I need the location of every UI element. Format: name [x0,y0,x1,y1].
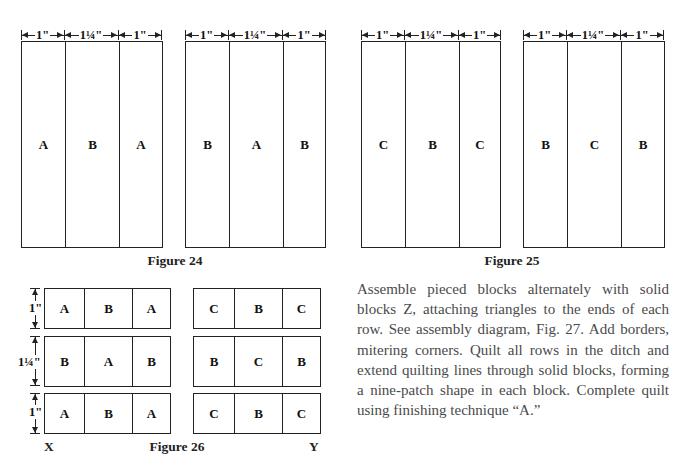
figure-caption: Figure 24 [120,253,230,269]
row-height-label: 1" [29,301,42,315]
instructions-paragraph: Assemble pieced blocks alternately with … [357,279,669,420]
patch-cell: B [524,42,567,247]
patch-cell: C [282,289,320,328]
patch-cell: C [362,42,405,247]
patch-cell: B [405,42,459,247]
dimension-line: 1" 1¼" 1" [523,29,664,41]
dimension-label: 1" [472,29,487,41]
dimension-label: 1" [35,29,50,41]
patch-cell: A [119,42,162,247]
patch-cell: B [84,289,132,328]
patch-cell: B [234,289,282,328]
patch-cell: A [45,394,84,433]
patch-cell: A [84,337,132,386]
block-row: C B C [193,393,321,434]
dimension-label: 1¼" [581,29,606,41]
dimension-label: 1¼" [79,29,104,41]
patch-cell: B [234,394,282,433]
block-y-label: Y [309,439,323,455]
dimension-label: 1" [132,29,147,41]
patch-cell: C [194,394,234,433]
figure-caption: Figure 26 [132,439,222,455]
patch-cell: A [229,42,283,247]
dimension-label: 1" [375,29,390,41]
block-row: A B A [44,393,171,434]
patch-cell: B [186,42,229,247]
strip-panel: B C B [523,41,665,248]
strip-panel: B A B [185,41,326,248]
patch-cell: B [621,42,664,247]
strip-panel: C B C [361,41,501,248]
patch-cell: C [567,42,621,247]
patch-cell: B [132,337,170,386]
patch-cell: C [194,289,234,328]
patch-cell: B [84,394,132,433]
patch-cell: B [45,337,84,386]
block-row: C B C [193,288,321,329]
patch-cell: B [282,337,320,386]
patch-cell: C [459,42,500,247]
patch-cell: B [65,42,119,247]
block-row: B A B [44,336,171,387]
block-row: A B A [44,288,171,329]
patch-cell: A [132,289,170,328]
dimension-label: 1¼" [243,29,268,41]
block-row: B C B [193,336,321,387]
dimension-line: 1" 1¼" 1" [361,29,501,41]
figure-caption: Figure 25 [457,253,567,269]
patch-cell: C [234,337,282,386]
row-height-label: 1" [29,405,42,419]
patch-cell: A [132,394,170,433]
dimension-line: 1" 1¼" 1" [185,29,326,41]
patch-cell: B [283,42,325,247]
block-x-label: X [44,439,58,455]
dimension-label: 1" [199,29,214,41]
dimension-label: 1" [296,29,311,41]
strip-panel: A B A [21,41,163,248]
patch-cell: B [194,337,234,386]
dimension-label: 1¼" [419,29,444,41]
patch-cell: C [282,394,320,433]
patch-cell: A [45,289,84,328]
dimension-label: 1" [537,29,552,41]
patch-cell: A [22,42,65,247]
dimension-line: 1" 1¼" 1" [21,29,162,41]
dimension-label: 1" [634,29,649,41]
row-height-label: 1¼" [18,355,41,369]
